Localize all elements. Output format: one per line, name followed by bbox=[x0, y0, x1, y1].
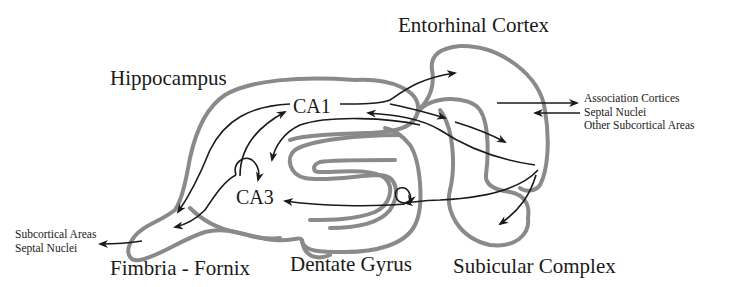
arrow-ca3-recurrent bbox=[235, 158, 258, 180]
target-subcortical-areas: Subcortical Areas bbox=[15, 228, 96, 242]
label-entorhinal-cortex: Entorhinal Cortex bbox=[398, 15, 549, 36]
label-hippocampus: Hippocampus bbox=[110, 68, 227, 89]
dentate-gyrus-lower bbox=[302, 128, 420, 252]
arrow-entorhinal-to-subiculum bbox=[500, 175, 536, 224]
arrow-fimbria-to-subcortical bbox=[100, 241, 142, 244]
target-septal-nuclei-left: Septal Nuclei bbox=[15, 242, 96, 256]
external-targets-left: Subcortical Areas Septal Nuclei bbox=[15, 228, 96, 255]
label-ca1: CA1 bbox=[293, 96, 331, 116]
dentate-gyrus-outer bbox=[290, 135, 400, 228]
label-dentate-gyrus: Dentate Gyrus bbox=[290, 254, 412, 275]
arrow-ca1-to-subiculum-b bbox=[455, 122, 505, 142]
target-other-subcortical-areas: Other Subcortical Areas bbox=[584, 119, 695, 133]
target-septal-nuclei-right: Septal Nuclei bbox=[584, 106, 695, 120]
target-association-cortices: Association Cortices bbox=[584, 92, 695, 106]
external-targets-right: Association Cortices Septal Nuclei Other… bbox=[584, 92, 695, 133]
label-fimbria-fornix: Fimbria - Fornix bbox=[110, 258, 250, 279]
label-subicular-complex: Subicular Complex bbox=[453, 256, 616, 277]
arrow-entorhinal-to-dg bbox=[405, 170, 538, 203]
hippocampal-circuit-diagram bbox=[0, 0, 729, 287]
dentate-gyrus-inner bbox=[310, 160, 395, 220]
label-ca3: CA3 bbox=[236, 187, 274, 207]
